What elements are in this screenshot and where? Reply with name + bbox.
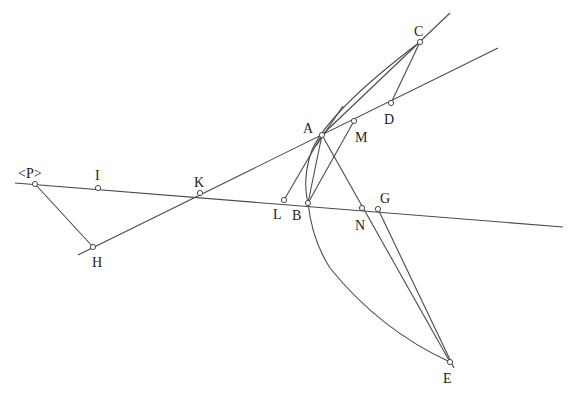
line-A-N-E: [322, 135, 450, 362]
point-k: [197, 190, 202, 195]
point-d: [388, 100, 393, 105]
line-P-H: [35, 184, 93, 247]
label-point-b: B: [292, 208, 301, 223]
label-point-m: M: [355, 130, 368, 145]
label-point-e: E: [443, 371, 452, 386]
label-point-g: G: [380, 191, 390, 206]
label-point-h: H: [92, 255, 102, 270]
label-point-n: N: [355, 218, 365, 233]
point-i: [95, 185, 100, 190]
line-A-B: [308, 135, 322, 203]
point-p: [32, 181, 37, 186]
label-point-i: I: [95, 168, 100, 183]
labels-layer: <P>IKLBNGHAMDCE: [18, 24, 452, 386]
point-n: [359, 205, 364, 210]
point-m: [351, 118, 356, 123]
curve-C-A-B: [306, 42, 420, 203]
point-c: [417, 39, 422, 44]
line-M-B: [308, 121, 354, 203]
label-point-c: C: [414, 24, 423, 39]
point-b: [305, 200, 310, 205]
label-point-p: <P>: [18, 166, 42, 181]
point-g: [375, 206, 380, 211]
point-l: [281, 197, 286, 202]
label-point-a: A: [303, 121, 314, 136]
point-a: [319, 132, 324, 137]
label-point-k: K: [194, 175, 204, 190]
geometry-diagram: <P>IKLBNGHAMDCE: [0, 0, 572, 398]
point-e: [447, 359, 452, 364]
curve-B-E: [308, 203, 450, 362]
point-h: [90, 244, 95, 249]
label-point-d: D: [384, 112, 394, 127]
line-H-K-A-M-D: [78, 48, 498, 255]
label-point-l: L: [273, 207, 282, 222]
